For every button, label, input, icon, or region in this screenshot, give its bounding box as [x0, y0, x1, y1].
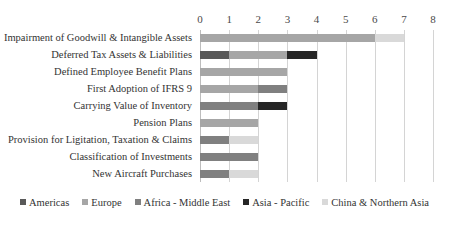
- bar-row: [200, 136, 433, 144]
- x-tick-label: 4: [314, 12, 320, 26]
- bar-row: [200, 68, 433, 76]
- bar-segment: [200, 85, 258, 93]
- y-axis-category-labels: Impairment of Goodwill & Intangible Asse…: [0, 30, 196, 182]
- bar-segment: [200, 34, 375, 42]
- legend-label: Europe: [91, 196, 121, 209]
- category-label: Deferred Tax Assets & Liabilities: [51, 49, 192, 61]
- x-tick-label: 8: [430, 12, 436, 26]
- x-tick-label: 3: [285, 12, 291, 26]
- bar-row: [200, 102, 433, 110]
- chart-legend: AmericasEuropeAfrica - Middle EastAsia -…: [0, 192, 449, 212]
- category-label: Classification of Investments: [70, 151, 192, 163]
- bar-row: [200, 51, 433, 59]
- legend-swatch-icon: [135, 199, 141, 205]
- category-label: Impairment of Goodwill & Intangible Asse…: [4, 32, 192, 44]
- bar-segment: [229, 136, 258, 144]
- bar-row: [200, 85, 433, 93]
- bar-segment: [287, 51, 316, 59]
- category-label: Pension Plans: [133, 117, 192, 129]
- x-tick-label: 5: [343, 12, 349, 26]
- x-tick-label: 0: [197, 12, 203, 26]
- x-tick-label: 1: [226, 12, 232, 26]
- bar-row: [200, 153, 433, 161]
- bar-segment: [200, 136, 229, 144]
- bar-segment: [200, 170, 229, 178]
- bar-segment: [229, 170, 258, 178]
- category-label: Provision for Ligitation, Taxation & Cla…: [8, 134, 192, 146]
- legend-item[interactable]: Asia - Pacific: [243, 196, 309, 209]
- gridline-8: [433, 30, 434, 182]
- category-label: New Aircraft Purchases: [92, 168, 192, 180]
- legend-item[interactable]: Europe: [82, 196, 121, 209]
- legend-label: China & Northern Asia: [331, 196, 429, 209]
- bar-segment: [375, 34, 404, 42]
- x-tick-label: 6: [372, 12, 378, 26]
- legend-swatch-icon: [322, 199, 328, 205]
- bar-segment: [200, 51, 229, 59]
- category-label: Carrying Value of Inventory: [74, 100, 192, 112]
- category-label: First Adoption of IFRS 9: [87, 83, 192, 95]
- plot-area: [200, 30, 433, 182]
- bar-row: [200, 170, 433, 178]
- legend-label: Americas: [29, 196, 69, 209]
- bar-row: [200, 119, 433, 127]
- legend-item[interactable]: Africa - Middle East: [135, 196, 231, 209]
- bar-segment: [200, 119, 258, 127]
- bar-segment: [258, 85, 287, 93]
- legend-swatch-icon: [243, 199, 249, 205]
- bar-segment: [200, 68, 287, 76]
- legend-swatch-icon: [82, 199, 88, 205]
- stacked-bar-chart: 012345678 Impairment of Goodwill & Intan…: [0, 0, 449, 228]
- legend-label: Asia - Pacific: [252, 196, 309, 209]
- x-tick-label: 2: [256, 12, 262, 26]
- bar-segment: [200, 102, 258, 110]
- x-tick-label: 7: [401, 12, 407, 26]
- legend-label: Africa - Middle East: [144, 196, 231, 209]
- bar-row: [200, 34, 433, 42]
- legend-swatch-icon: [20, 199, 26, 205]
- legend-item[interactable]: China & Northern Asia: [322, 196, 429, 209]
- bar-segment: [258, 102, 287, 110]
- category-label: Defined Employee Benefit Plans: [54, 66, 192, 78]
- legend-item[interactable]: Americas: [20, 196, 69, 209]
- x-axis-tick-labels: 012345678: [200, 12, 433, 28]
- bar-segment: [200, 153, 258, 161]
- bar-segment: [229, 51, 287, 59]
